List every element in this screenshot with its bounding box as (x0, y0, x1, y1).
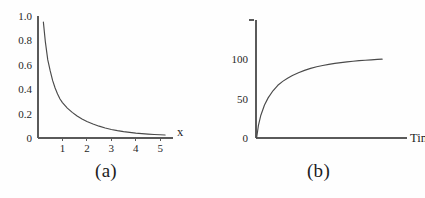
x-tick-label-a-2: 3 (109, 142, 115, 154)
y-tick-label-b-1: 50 (237, 93, 249, 105)
curve-decay-a (43, 22, 165, 135)
x-tick-label-a-1: 2 (84, 142, 90, 154)
panel-a: 00.20.40.60.81.012345x (a) (0, 0, 212, 198)
y-tick-label-a-2: 0.4 (18, 83, 32, 95)
y-tick-label-b-0: 0 (243, 132, 249, 144)
plot-b: 050100Time (212, 0, 425, 160)
plot-a: 00.20.40.60.81.012345x (0, 0, 212, 160)
panel-b: 050100Time (b) (212, 0, 425, 198)
x-tick-label-a-0: 1 (60, 142, 66, 154)
x-axis-label-a: x (177, 125, 184, 139)
y-tick-label-a-5: 1.0 (18, 10, 32, 22)
x-axis-label-b: Time (410, 131, 425, 145)
y-tick-label-a-1: 0.2 (18, 108, 32, 120)
figure-container: 00.20.40.60.81.012345x (a) 050100Time (b… (0, 0, 425, 198)
y-tick-label-a-4: 0.8 (18, 34, 32, 46)
curve-saturation-b (257, 59, 383, 138)
y-tick-label-a-0: 0 (27, 132, 33, 144)
y-tick-label-a-3: 0.6 (18, 59, 32, 71)
caption-b: (b) (212, 160, 425, 182)
caption-a: (a) (0, 160, 212, 182)
y-tick-label-b-2: 100 (232, 53, 249, 65)
x-tick-label-a-3: 4 (133, 142, 139, 154)
x-tick-label-a-4: 5 (157, 142, 163, 154)
